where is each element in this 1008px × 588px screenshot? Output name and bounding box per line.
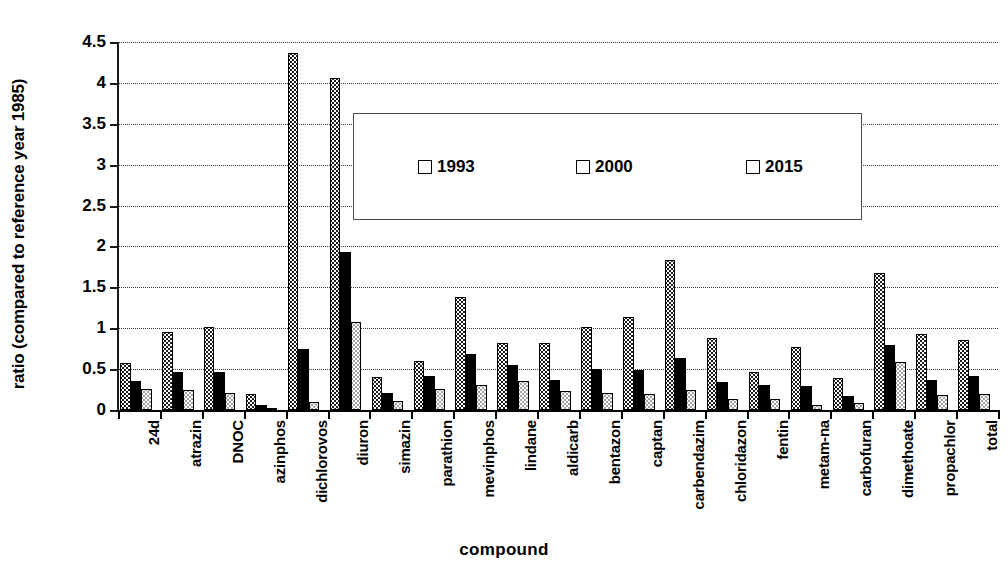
bar-group: [244, 42, 286, 410]
y-axis-tick-label: 0: [42, 400, 106, 420]
y-axis-tick: [110, 165, 119, 167]
bar-1993-propachlor: [916, 334, 927, 410]
x-category-label: carbofuran: [857, 420, 874, 496]
bar-2015-lindane: [518, 381, 529, 410]
y-axis-tick-label: 1.5: [42, 277, 106, 297]
legend-entry-2000: 2000: [576, 157, 633, 177]
bar-group: [872, 42, 914, 410]
x-axis-tick: [956, 410, 958, 419]
bar-group: [328, 42, 370, 410]
x-category-label: mevinphos: [480, 420, 497, 497]
bar-2000-carbofuran: [843, 396, 854, 410]
bar-group: [160, 42, 202, 410]
x-axis-tick: [705, 410, 707, 419]
x-axis-tick: [244, 410, 246, 419]
legend-swatch-2000-icon: [576, 160, 590, 174]
bar-2015-simazin: [393, 401, 404, 410]
x-category-label: fentin: [774, 420, 791, 460]
bar-1993-total: [958, 340, 969, 410]
x-category-label: carbendazim: [690, 420, 707, 510]
bar-2015-24d: [141, 389, 152, 410]
bar-2015-carbendazim: [686, 390, 697, 410]
x-axis-tick: [830, 410, 832, 419]
bar-group: [411, 42, 453, 410]
x-category-label: chloridazon: [732, 420, 749, 502]
bar-1993-chloridazon: [707, 338, 718, 410]
x-axis-tick: [621, 410, 623, 419]
bar-group: [286, 42, 328, 410]
bar-2015-aldicarb: [560, 391, 571, 410]
bar-group: [956, 42, 998, 410]
bar-2000-lindane: [508, 365, 519, 410]
bar-1993-captan: [623, 317, 634, 410]
x-category-label: 24d: [145, 420, 162, 445]
bar-1993-24d: [120, 363, 131, 410]
bar-group: [202, 42, 244, 410]
x-category-label: simazin: [396, 420, 413, 474]
bar-group: [579, 42, 621, 410]
bar-1993-metam-na: [791, 347, 802, 410]
y-axis-tick: [110, 124, 119, 126]
x-axis-title: compound: [0, 540, 1008, 560]
bar-group: [788, 42, 830, 410]
x-axis-tick: [453, 410, 455, 419]
bar-2000-diuron: [340, 252, 351, 410]
y-axis-tick: [110, 328, 119, 330]
x-category-label: propachlor: [941, 420, 958, 496]
x-category-label: dichlorovos: [313, 420, 330, 503]
y-axis-tick-label: 2: [42, 236, 106, 256]
bar-1993-carbendazim: [665, 260, 676, 410]
bar-2000-captan: [634, 370, 645, 410]
x-category-label: aldicarb: [564, 420, 581, 476]
x-category-label: total: [983, 420, 1000, 451]
legend-label-1993: 1993: [437, 157, 475, 177]
bar-2015-propachlor: [937, 395, 948, 410]
x-axis-tick: [914, 410, 916, 419]
bar-1993-simazin: [372, 377, 383, 410]
x-axis-tick: [579, 410, 581, 419]
bar-group: [537, 42, 579, 410]
bar-2000-bentazon: [592, 369, 603, 410]
bar-2015-DNOC: [225, 393, 236, 410]
bar-1993-carbofuran: [833, 378, 844, 410]
bar-group: [830, 42, 872, 410]
bar-1993-bentazon: [581, 327, 592, 410]
x-axis-tick: [286, 410, 288, 419]
x-category-label: bentazon: [606, 420, 623, 484]
x-axis-tick: [872, 410, 874, 419]
bar-2000-carbendazim: [675, 358, 686, 410]
bar-group: [453, 42, 495, 410]
bar-1993-DNOC: [204, 327, 215, 410]
bar-1993-fentin: [749, 372, 760, 410]
legend-label-2000: 2000: [595, 157, 633, 177]
x-category-label: captan: [648, 420, 665, 467]
legend-swatch-1993-icon: [418, 160, 432, 174]
bar-2015-mevinphos: [476, 385, 487, 410]
bar-group: [705, 42, 747, 410]
y-axis-tick-label: 3.5: [42, 114, 106, 134]
bar-1993-atrazin: [162, 332, 173, 410]
bar-2000-metam-na: [801, 386, 812, 410]
x-axis-tick: [369, 410, 371, 419]
x-axis-tick: [328, 410, 330, 419]
bar-2000-simazin: [382, 393, 393, 410]
x-axis-tick: [411, 410, 413, 419]
bar-2000-24d: [131, 381, 142, 410]
bar-1993-dimethoate: [874, 273, 885, 410]
x-category-label: DNOC: [229, 420, 246, 463]
x-axis-tick: [202, 410, 204, 419]
y-axis-tick: [110, 246, 119, 248]
y-axis-tick-label: 2.5: [42, 196, 106, 216]
bar-2015-atrazin: [183, 390, 194, 410]
y-axis-tick: [110, 42, 119, 44]
bar-2000-parathion: [424, 376, 435, 410]
y-axis-tick: [110, 410, 119, 412]
bar-2000-total: [969, 376, 980, 410]
bar-2015-diuron: [351, 322, 362, 410]
bar-group: [621, 42, 663, 410]
legend-swatch-2015-icon: [746, 160, 760, 174]
x-category-label: atrazin: [187, 420, 204, 467]
x-category-label: dimethoate: [899, 420, 916, 498]
x-category-label: diuron: [354, 420, 371, 465]
bar-2015-parathion: [435, 389, 446, 410]
